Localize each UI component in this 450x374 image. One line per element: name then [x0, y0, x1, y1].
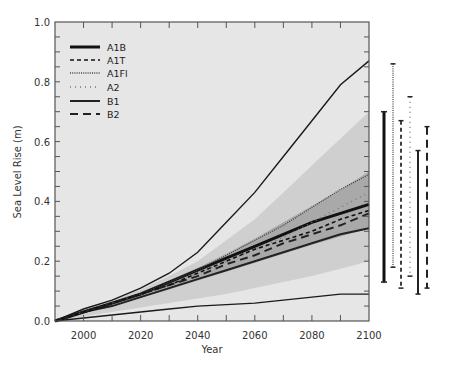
- x-tick-label: 2060: [242, 330, 267, 341]
- y-tick-label: 0.6: [34, 137, 50, 148]
- range-bar-a1fi: [391, 64, 396, 267]
- sea-level-rise-chart: 2000202020402060208021000.00.20.40.60.81…: [0, 0, 450, 374]
- y-tick-label: 1.0: [34, 17, 50, 28]
- legend-label: B2: [107, 109, 120, 120]
- legend-label: A1Fl: [107, 68, 128, 79]
- x-axis-title: Year: [200, 344, 223, 355]
- range-bar-a1b: [381, 112, 387, 282]
- x-tick-label: 2020: [128, 330, 153, 341]
- x-tick-label: 2040: [185, 330, 210, 341]
- y-tick-label: 0.2: [34, 256, 50, 267]
- y-tick-label: 0.4: [34, 196, 50, 207]
- y-axis-title: Sea Level Rise (m): [12, 125, 23, 218]
- y-tick-label: 0.8: [34, 77, 50, 88]
- x-tick-label: 2080: [299, 330, 324, 341]
- range-bar-b2: [425, 127, 430, 288]
- legend-label: A1T: [107, 55, 126, 66]
- x-tick-label: 2000: [71, 330, 96, 341]
- legend-label: A1B: [107, 42, 126, 53]
- range-bar-a1t: [399, 121, 404, 288]
- range-bars-2100: [381, 64, 430, 294]
- range-bar-a2: [408, 97, 413, 276]
- range-bar-b1: [416, 151, 421, 295]
- legend-label: B1: [107, 96, 120, 107]
- legend-label: A2: [107, 82, 120, 93]
- y-tick-label: 0.0: [34, 316, 50, 327]
- x-tick-label: 2100: [356, 330, 381, 341]
